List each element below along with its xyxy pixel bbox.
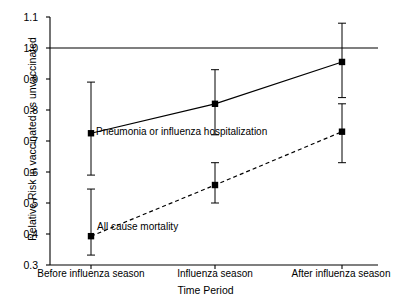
data-point-marker xyxy=(339,59,345,65)
x-tick-label-after: After influenza season xyxy=(272,268,410,279)
data-point-marker xyxy=(339,129,345,135)
y-tick-label: 0.5 xyxy=(4,197,38,209)
x-tick-label-before: Before influenza season xyxy=(16,268,166,279)
data-point-marker xyxy=(212,101,218,107)
series-line-0 xyxy=(91,62,342,133)
y-tick-label: 0.8 xyxy=(4,104,38,116)
x-axis-label: Time Period xyxy=(0,284,411,296)
y-tick-label: 1.1 xyxy=(4,11,38,23)
x-tick-label-during: Influenza season xyxy=(150,268,280,279)
y-tick-label: 0.9 xyxy=(4,73,38,85)
chart-figure: Relative Risk in vaccinated vs unvaccina… xyxy=(0,0,411,306)
y-tick-label: 1.0 xyxy=(4,42,38,54)
data-point-marker xyxy=(88,233,94,239)
y-tick-label: 0.6 xyxy=(4,166,38,178)
chart-canvas xyxy=(0,0,411,306)
y-tick-label: 0.7 xyxy=(4,135,38,147)
data-point-marker xyxy=(88,130,94,136)
data-point-marker xyxy=(212,182,218,188)
y-tick-label: 0.4 xyxy=(4,228,38,240)
annotation-mortality-label: All cause mortality xyxy=(97,221,178,232)
annotation-pneumonia-label: Pneumonia or influenza hospitalization xyxy=(96,126,267,137)
